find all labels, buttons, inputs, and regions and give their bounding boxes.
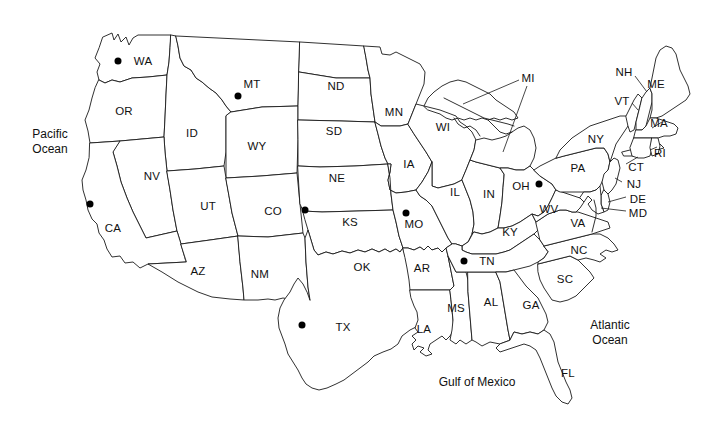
state-label-id: ID — [186, 127, 198, 139]
water-label-pacific-ocean: PacificOcean — [32, 127, 67, 157]
map-marker-ca[interactable] — [87, 201, 94, 208]
state-label-al: AL — [484, 296, 498, 308]
state-label-nc: NC — [570, 244, 587, 256]
state-label-ia: IA — [403, 158, 414, 170]
state-label-il: IL — [450, 186, 460, 198]
state-label-ca: CA — [105, 222, 121, 234]
state-label-wa: WA — [134, 55, 153, 67]
map-marker-tn[interactable] — [461, 258, 468, 265]
state-label-de: DE — [630, 193, 646, 205]
state-shape-ct — [630, 138, 652, 158]
state-label-wy: WY — [248, 140, 267, 152]
state-label-me: ME — [647, 78, 665, 90]
state-label-nd: ND — [327, 80, 344, 92]
state-label-ga: GA — [522, 299, 539, 311]
state-label-ri: RI — [654, 147, 666, 159]
state-label-or: OR — [115, 105, 133, 117]
state-shape-ks — [298, 164, 393, 212]
state-label-wv: WV — [540, 203, 559, 215]
state-label-az: AZ — [190, 265, 205, 277]
state-label-nj: NJ — [627, 178, 641, 190]
state-boundaries — [82, 33, 690, 404]
state-label-ne: NE — [329, 172, 345, 184]
map-marker-wa[interactable] — [115, 58, 122, 65]
map-marker-tx[interactable] — [299, 322, 306, 329]
state-label-nh: NH — [615, 66, 632, 78]
water-label-atlantic-ocean: AtlanticOcean — [590, 318, 629, 348]
water-label-line2: Ocean — [32, 142, 67, 157]
state-label-co: CO — [264, 205, 282, 217]
state-label-mi: MI — [521, 72, 534, 84]
water-label-line2: Ocean — [590, 333, 629, 348]
water-label-gulf-of-mexico: Gulf of Mexico — [439, 375, 516, 390]
state-label-mt: MT — [243, 78, 260, 90]
state-label-ms: MS — [447, 302, 465, 314]
state-label-mo: MO — [405, 218, 424, 230]
state-label-la: LA — [417, 323, 431, 335]
us-map-container: WAORIDMTWYNVUTCAAZNMCONDSDNEKSOKTXMNIAMO… — [0, 0, 710, 442]
state-label-ma: MA — [650, 117, 668, 129]
state-label-sd: SD — [326, 125, 342, 137]
state-label-nm: NM — [251, 268, 269, 280]
state-label-ky: KY — [502, 226, 518, 238]
state-label-ar: AR — [414, 262, 430, 274]
state-label-ut: UT — [200, 200, 216, 212]
state-label-oh: OH — [512, 180, 530, 192]
state-label-sc: SC — [557, 273, 573, 285]
water-label-line1: Gulf of Mexico — [439, 375, 516, 390]
state-label-mn: MN — [385, 106, 403, 118]
map-marker-co[interactable] — [302, 207, 309, 214]
state-label-md: MD — [629, 207, 647, 219]
state-label-wi: WI — [436, 121, 450, 133]
leader-line-nh — [635, 76, 647, 92]
state-label-ok: OK — [353, 261, 370, 273]
leader-line-de — [608, 197, 626, 202]
state-label-ks: KS — [342, 216, 358, 228]
state-label-in: IN — [483, 188, 495, 200]
leader-line-mi-upper — [463, 80, 519, 104]
state-label-tx: TX — [335, 321, 350, 333]
state-label-ct: CT — [628, 161, 644, 173]
state-label-fl: FL — [561, 367, 575, 379]
water-label-line1: Pacific — [32, 127, 67, 142]
state-label-va: VA — [571, 217, 586, 229]
state-label-pa: PA — [571, 162, 586, 174]
state-label-tn: TN — [479, 255, 495, 267]
water-label-line1: Atlantic — [590, 318, 629, 333]
state-label-vt: VT — [614, 95, 629, 107]
state-label-nv: NV — [144, 170, 160, 182]
state-shape-ne — [298, 120, 388, 167]
state-shape-nd — [299, 42, 370, 78]
map-marker-oh[interactable] — [536, 181, 543, 188]
map-marker-mo[interactable] — [403, 210, 410, 217]
map-marker-mt[interactable] — [235, 93, 242, 100]
state-label-ny: NY — [588, 133, 604, 145]
